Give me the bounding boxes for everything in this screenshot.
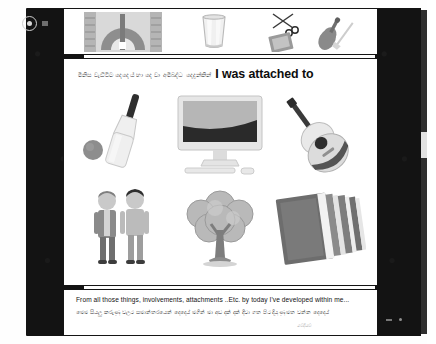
scissors-book-violin-icon: [267, 12, 357, 52]
filmstrip-slide[interactable]: [63, 8, 378, 55]
signature-text: මෙදියම: [297, 323, 311, 328]
filmstrip-row: [68, 12, 373, 51]
computer-image: [172, 85, 270, 181]
books-image: [269, 181, 367, 277]
caption-sinhala: මෙම සියලු කරුණු වලට සමාන්තරයෙන් දෙදෙය් ම…: [76, 309, 367, 316]
glass-tumbler-icon: [194, 12, 234, 52]
tree-image: [172, 181, 270, 277]
right-page-margin: [427, 0, 436, 344]
status-dash-icon: [386, 319, 392, 321]
caption-block: From all those things, involvements, att…: [76, 296, 367, 316]
headline-sinhala: මිනිස වැඩිවිට දෙදෙය් හා දෙ වා අමිබද්ධ දෙ…: [78, 71, 211, 79]
status-indicator-group: [386, 318, 402, 321]
protractor-ruler-thumbnail[interactable]: [84, 12, 162, 52]
cricket-bat-icon: [77, 90, 169, 176]
two-people-icon: [77, 186, 169, 272]
status-dot-icon: [399, 318, 402, 321]
video-player-stage: මිනිස වැඩිවිට දෙදෙය් හා දෙ වා අමිබද්ධ දෙ…: [0, 0, 436, 344]
desktop-computer-icon: [173, 90, 267, 176]
square-indicator-icon: [42, 21, 48, 26]
caption-slide[interactable]: From all those things, involvements, att…: [63, 289, 378, 336]
tree-icon: [173, 186, 267, 272]
caption-english: From all those things, involvements, att…: [76, 296, 367, 304]
guitar-image: [269, 85, 367, 181]
scissors-book-violin-thumbnail[interactable]: [267, 12, 357, 52]
drinking-glass-thumbnail[interactable]: [194, 12, 234, 52]
record-dot: [27, 21, 32, 26]
stack-of-books-icon: [270, 186, 366, 272]
main-slide[interactable]: මිනිස වැඩිවිට දෙදෙය් හා දෙ වා අමිබද්ධ දෙ…: [63, 58, 378, 286]
protractor-icon: [84, 12, 162, 52]
headline-english: I was attached to: [215, 67, 313, 81]
friends-image: [74, 181, 172, 277]
cricket-bat-ball-image: [74, 85, 172, 181]
letterbox-right: [375, 8, 421, 336]
acoustic-guitar-icon: [272, 90, 364, 176]
image-grid: [74, 85, 367, 277]
record-circle-icon[interactable]: [22, 16, 37, 31]
slide-headline: මිනිස වැඩිවිට දෙදෙය් හා දෙ වා අමිබද්ධ දෙ…: [78, 67, 367, 81]
